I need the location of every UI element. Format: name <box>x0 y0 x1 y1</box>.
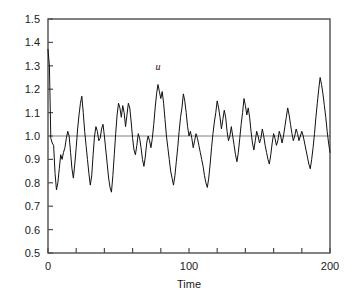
y-tick-label: 1.1 <box>25 107 40 119</box>
x-tick-label: 200 <box>321 260 339 272</box>
x-tick-label: 100 <box>180 260 198 272</box>
chart-figure: 0.50.60.70.80.91.01.11.21.31.41.5 010020… <box>0 0 355 298</box>
y-tick-label: 0.5 <box>25 247 40 259</box>
x-tick-label: 0 <box>45 260 51 272</box>
time-series-chart: 0.50.60.70.80.91.01.11.21.31.41.5 010020… <box>0 0 355 298</box>
chart-annotations: u <box>155 61 160 72</box>
x-axis-title: Time <box>177 278 201 290</box>
y-tick-label: 0.7 <box>25 200 40 212</box>
y-tick-label: 0.9 <box>25 153 40 165</box>
y-tick-label: 1.3 <box>25 60 40 72</box>
y-tick-label: 1.0 <box>25 130 40 142</box>
y-tick-label: 1.2 <box>25 83 40 95</box>
series-label-u: u <box>155 61 160 72</box>
y-tick-label: 0.8 <box>25 177 40 189</box>
y-tick-label: 1.5 <box>25 13 40 25</box>
y-tick-label: 1.4 <box>25 36 40 48</box>
y-tick-label: 0.6 <box>25 224 40 236</box>
